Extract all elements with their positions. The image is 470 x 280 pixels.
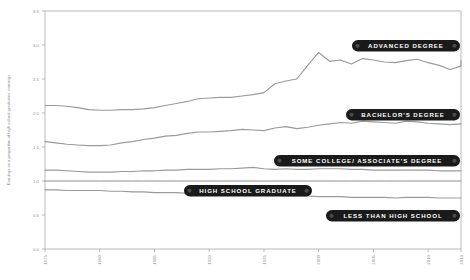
x-tick-label: 2005 bbox=[371, 254, 376, 264]
chart-canvas: 0.00.51.01.52.02.53.03.51975198019851990… bbox=[0, 0, 470, 280]
x-tick-label: 1985 bbox=[152, 254, 157, 264]
x-tick-label: 1975 bbox=[43, 254, 48, 264]
pill-end-dot bbox=[452, 159, 456, 163]
series-label-pill: LESS THAN HIGH SCHOOL bbox=[326, 210, 460, 222]
y-tick-label: 3.5 bbox=[33, 9, 40, 14]
series-label-pill: BACHELOR'S DEGREE bbox=[346, 109, 460, 121]
y-tick-label: 2.5 bbox=[33, 77, 40, 82]
pill-end-dot bbox=[187, 189, 191, 193]
pill-end-dot bbox=[355, 44, 359, 48]
y-tick-label: 0.0 bbox=[33, 247, 40, 252]
series-label-pill: HIGH SCHOOL GRADUATE bbox=[184, 185, 312, 197]
pill-end-dot bbox=[304, 189, 308, 193]
x-tick-label: 2000 bbox=[316, 254, 321, 264]
pill-end-dot bbox=[452, 44, 456, 48]
y-tick-label: 2.0 bbox=[33, 111, 40, 116]
pill-end-dot bbox=[452, 214, 456, 218]
pill-label: HIGH SCHOOL GRADUATE bbox=[199, 187, 297, 194]
earnings-premium-line-chart: 0.00.51.01.52.02.53.03.51975198019851990… bbox=[0, 0, 470, 280]
x-tick-label: 1990 bbox=[207, 254, 212, 264]
x-tick-label: 2010 bbox=[426, 254, 431, 264]
pill-end-dot bbox=[452, 113, 456, 117]
x-tick-label: 1995 bbox=[262, 254, 267, 264]
pill-label: LESS THAN HIGH SCHOOL bbox=[343, 212, 442, 219]
pill-end-dot bbox=[329, 214, 333, 218]
pill-end-dot bbox=[277, 159, 281, 163]
pill-end-dot bbox=[349, 113, 353, 117]
y-tick-label: 0.5 bbox=[33, 213, 40, 218]
pill-label: ADVANCED DEGREE bbox=[368, 42, 444, 49]
x-tick-label: 2013 bbox=[459, 254, 464, 264]
pill-label: BACHELOR'S DEGREE bbox=[361, 111, 445, 118]
x-tick-label: 1980 bbox=[97, 254, 102, 264]
y-tick-label: 1.0 bbox=[33, 179, 40, 184]
y-tick-label: 1.5 bbox=[33, 145, 40, 150]
series-label-pill: ADVANCED DEGREE bbox=[352, 40, 460, 52]
series-line-advanced-degree bbox=[45, 52, 461, 110]
y-tick-label: 3.0 bbox=[33, 43, 40, 48]
pill-label: SOME COLLEGE/ ASSOCIATE'S DEGREE bbox=[292, 157, 443, 164]
series-line-some-college-associate-s-degree bbox=[45, 167, 461, 172]
y-axis-title: Earnings as a proportion of high school … bbox=[6, 75, 11, 185]
series-line-bachelor-s-degree bbox=[45, 121, 461, 145]
series-label-pill: SOME COLLEGE/ ASSOCIATE'S DEGREE bbox=[274, 155, 460, 167]
